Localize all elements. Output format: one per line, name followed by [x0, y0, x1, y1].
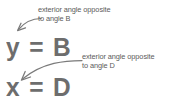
- diagram-canvas: exterior angle opposite to angle B exter…: [0, 0, 173, 106]
- annotation-d-line2: to angle D: [82, 61, 154, 70]
- annotation-b-line2: to angle B: [38, 14, 110, 23]
- annotation-b-line1: exterior angle opposite: [38, 5, 110, 14]
- equation-x-equals-d: x = D: [6, 74, 72, 100]
- equation-y-equals-b: y = B: [6, 34, 72, 60]
- annotation-exterior-angle-d: exterior angle opposite to angle D: [82, 52, 154, 70]
- annotation-d-line1: exterior angle opposite: [82, 52, 154, 61]
- annotation-exterior-angle-b: exterior angle opposite to angle B: [38, 5, 110, 23]
